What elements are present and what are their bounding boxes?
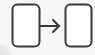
source-box-icon — [13, 5, 40, 47]
flow-arrow-button[interactable] — [0, 0, 95, 55]
right-arrow-icon — [40, 20, 59, 32]
target-box-icon — [66, 5, 92, 47]
flow-arrow-icon — [0, 0, 95, 55]
